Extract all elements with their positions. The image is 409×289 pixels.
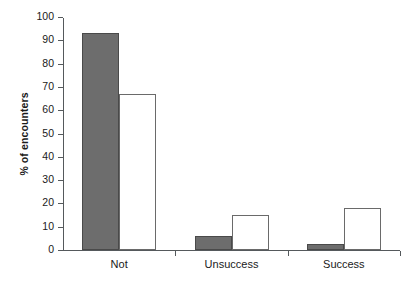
bar-success-filled xyxy=(307,244,344,250)
bar-success-open xyxy=(344,208,381,250)
y-tick-10: 10 xyxy=(63,227,64,228)
x-tick-mark xyxy=(175,251,176,256)
y-tick-80: 80 xyxy=(63,64,64,65)
y-axis-title: % of encounters xyxy=(18,64,30,204)
bar-chart: % of encounters 0102030405060708090100 N… xyxy=(0,0,409,289)
y-tick-0: 0 xyxy=(63,250,64,251)
y-tick-label: 10 xyxy=(42,220,54,232)
y-tick-40: 40 xyxy=(63,157,64,158)
bar-unsuccess-filled xyxy=(195,236,232,250)
y-tick-20: 20 xyxy=(63,203,64,204)
y-tick-mark xyxy=(58,87,63,88)
y-tick-mark xyxy=(58,203,63,204)
y-tick-90: 90 xyxy=(63,40,64,41)
bar-not-filled xyxy=(82,33,119,250)
y-tick-100: 100 xyxy=(63,17,64,18)
bar-not-open xyxy=(119,94,156,250)
y-tick-30: 30 xyxy=(63,180,64,181)
x-category-label-not: Not xyxy=(111,258,128,270)
x-category-label-unsuccess: Unsuccess xyxy=(205,258,259,270)
y-tick-label: 90 xyxy=(42,33,54,45)
y-tick-70: 70 xyxy=(63,87,64,88)
y-tick-label: 60 xyxy=(42,103,54,115)
y-tick-label: 100 xyxy=(36,10,54,22)
y-tick-label: 80 xyxy=(42,57,54,69)
plot-area: 0102030405060708090100 xyxy=(63,18,400,251)
y-tick-label: 70 xyxy=(42,80,54,92)
y-tick-label: 50 xyxy=(42,127,54,139)
y-tick-50: 50 xyxy=(63,134,64,135)
y-tick-60: 60 xyxy=(63,110,64,111)
x-axis-line xyxy=(63,250,400,251)
y-tick-mark xyxy=(58,157,63,158)
y-tick-label: 0 xyxy=(48,243,54,255)
y-tick-label: 30 xyxy=(42,173,54,185)
y-tick-mark xyxy=(58,40,63,41)
y-tick-mark xyxy=(58,64,63,65)
y-axis-line xyxy=(63,18,64,251)
y-tick-mark xyxy=(58,250,63,251)
y-tick-mark xyxy=(58,227,63,228)
y-tick-label: 40 xyxy=(42,150,54,162)
bar-unsuccess-open xyxy=(232,215,269,250)
y-tick-mark xyxy=(58,17,63,18)
x-tick-mark xyxy=(288,251,289,256)
y-tick-mark xyxy=(58,134,63,135)
y-tick-label: 20 xyxy=(42,196,54,208)
x-tick-mark xyxy=(400,251,401,256)
x-category-label-success: Success xyxy=(323,258,365,270)
y-tick-mark xyxy=(58,180,63,181)
y-tick-mark xyxy=(58,110,63,111)
